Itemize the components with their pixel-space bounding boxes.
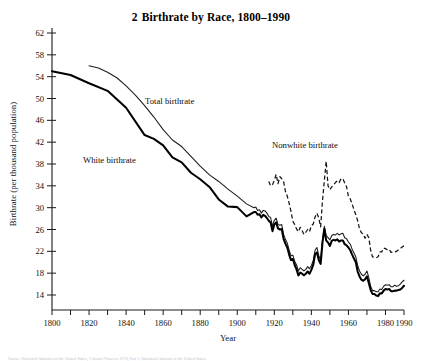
x-axis-tick-label: 1940	[303, 318, 320, 328]
y-axis-tick-label: 14	[35, 290, 44, 300]
x-axis-title: Year	[220, 333, 236, 343]
y-axis-title: Birthrate (per thousand population)	[8, 102, 18, 226]
y-axis-tick-label: 58	[35, 50, 44, 60]
y-axis-tick-label: 30	[35, 203, 44, 213]
x-axis-tick-label: 1920	[266, 318, 283, 328]
birthrate-chart: 14182226303438424650545862Birthrate (per…	[0, 0, 422, 348]
figure-source-note: Source: Historical Statistics of the Uni…	[8, 356, 416, 361]
series-white-birthrate	[52, 71, 404, 296]
series-total-birthrate	[89, 66, 404, 292]
series-nonwhite-birthrate	[269, 161, 404, 258]
y-axis-tick-label: 34	[35, 181, 44, 191]
figure-container: 2Birthrate by Race, 1800–1990 1418222630…	[0, 0, 422, 361]
nonwhite-birthrate-label: Nonwhite birthrate	[272, 140, 338, 150]
x-axis-tick-label: 1960	[340, 318, 357, 328]
x-axis-tick-label: 1980	[377, 318, 394, 328]
x-axis-tick-label: 1990	[395, 318, 412, 328]
total-birthrate-label: Total birthrate	[145, 96, 194, 106]
y-axis-tick-label: 38	[35, 159, 44, 169]
white-birthrate-label: White birthrate	[83, 155, 136, 165]
y-axis-tick-label: 42	[35, 137, 44, 147]
x-axis-tick-label: 1820	[80, 318, 97, 328]
x-axis-tick-label: 1880	[192, 318, 209, 328]
x-axis-tick-label: 1900	[229, 318, 246, 328]
y-axis-tick-label: 22	[35, 246, 44, 256]
y-axis-tick-label: 46	[35, 115, 44, 125]
y-axis-tick-label: 18	[35, 268, 44, 278]
y-axis-tick-label: 50	[35, 94, 44, 104]
chart-axes	[52, 28, 404, 310]
y-axis-tick-label: 26	[35, 225, 44, 235]
x-axis-tick-label: 1860	[155, 318, 172, 328]
x-axis-tick-label: 1800	[43, 318, 60, 328]
x-axis-tick-label: 1840	[118, 318, 135, 328]
y-axis-tick-label: 62	[35, 28, 44, 38]
y-axis-tick-label: 54	[35, 72, 44, 82]
